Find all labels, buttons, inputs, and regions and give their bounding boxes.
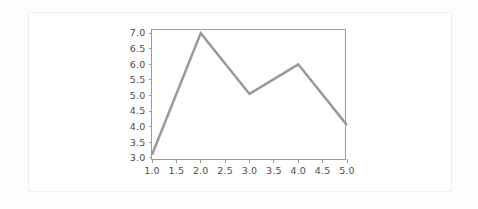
y-tick-label: 6.0 xyxy=(130,60,146,70)
plot-area: 3.03.54.04.55.05.56.06.57.0 1.01.52.02.5… xyxy=(151,29,346,160)
x-tick-label: 5.0 xyxy=(339,166,355,176)
y-tick-label: 3.5 xyxy=(130,138,146,148)
line-series-svg xyxy=(152,30,347,161)
figure-card: 3.03.54.04.55.05.56.06.57.0 1.01.52.02.5… xyxy=(28,12,452,192)
x-tick-label: 1.5 xyxy=(169,166,185,176)
x-tick-label: 2.0 xyxy=(193,166,209,176)
y-tick-label: 7.0 xyxy=(130,28,146,38)
y-tick-label: 5.0 xyxy=(130,91,146,101)
x-tick-label: 3.0 xyxy=(242,166,258,176)
y-tick-label: 4.5 xyxy=(130,106,146,116)
x-tick-label: 3.5 xyxy=(266,166,282,176)
line-series-1 xyxy=(152,33,347,155)
y-tick-label: 5.5 xyxy=(130,75,146,85)
x-tick-label: 4.0 xyxy=(290,166,306,176)
x-tick-label: 1.0 xyxy=(144,166,160,176)
x-tick-label: 2.5 xyxy=(217,166,233,176)
y-tick-label: 4.0 xyxy=(130,122,146,132)
x-tick-label: 4.5 xyxy=(315,166,331,176)
y-tick-label: 6.5 xyxy=(130,44,146,54)
y-tick-label: 3.0 xyxy=(130,153,146,163)
